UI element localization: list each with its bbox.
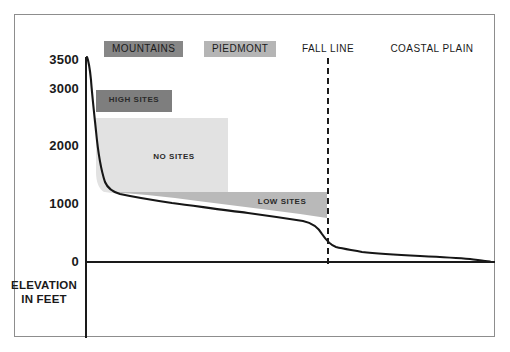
y-tick-3000: 3000 [13,81,79,96]
y-axis-title: ELEVATION IN FEET [8,278,80,306]
y-tick-2000: 2000 [13,138,79,153]
band-label-low-sites: LOW SITES [243,197,321,206]
y-tick-0: 0 [13,254,79,269]
region-label-piedmont: PIEDMONT [204,41,276,57]
region-label-fall-line: FALL LINE [296,41,360,57]
band-label-no-sites: NO SITES [120,152,228,161]
y-axis-title-line1: ELEVATION [8,278,80,292]
band-label-high-sites: HIGH SITES [96,95,172,104]
y-axis-line [85,57,87,338]
y-axis-title-line2: IN FEET [8,292,80,306]
fall-line-marker [327,58,329,264]
region-label-coastal-plain: COASTAL PLAIN [385,41,479,57]
elevation-profile-figure: HIGH SITES NO SITES LOW SITES 3500 3000 … [0,0,510,352]
x-axis-line [85,261,495,263]
region-label-mountains: MOUNTAINS [104,41,183,57]
y-tick-1000: 1000 [13,196,79,211]
y-tick-3500: 3500 [13,52,79,67]
